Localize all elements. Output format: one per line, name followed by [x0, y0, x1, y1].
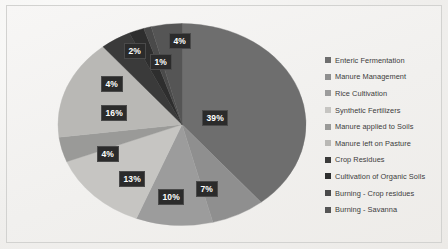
pie-slice-percentage-label: 4%: [101, 76, 123, 92]
legend-color-swatch-icon: [325, 90, 331, 96]
legend-item-label: Burning - Crop residues: [335, 189, 414, 198]
pie-slice-percentage-label: 4%: [169, 33, 191, 49]
legend-color-swatch-icon: [325, 207, 331, 213]
legend-color-swatch-icon: [325, 107, 331, 113]
pie-slice-percentage-label: 4%: [97, 146, 119, 162]
legend-item-label: Manure left on Pasture: [335, 139, 411, 148]
pie-slice-percentage-label: 10%: [158, 189, 184, 205]
legend-color-swatch-icon: [325, 74, 331, 80]
legend-item[interactable]: Manure applied to Soils: [325, 118, 445, 135]
legend-item[interactable]: Burning - Savanna: [325, 201, 445, 218]
legend-color-swatch-icon: [325, 190, 331, 196]
legend-item[interactable]: Synthetic Fertilizers: [325, 102, 445, 119]
legend-color-swatch-icon: [325, 140, 331, 146]
pie-slice-percentage-label: 2%: [124, 43, 146, 59]
legend-item[interactable]: Cultivation of Organic Soils: [325, 168, 445, 185]
legend-color-swatch-icon: [325, 157, 331, 163]
legend-item[interactable]: Enteric Fermentation: [325, 52, 445, 69]
legend-color-swatch-icon: [325, 124, 331, 130]
pie-slice-percentage-label: 1%: [150, 54, 172, 70]
legend-item-label: Crop Residues: [335, 155, 385, 164]
legend-item-label: Manure applied to Soils: [335, 122, 413, 131]
pie-slice-percentage-label: 39%: [202, 110, 228, 126]
pie-slice-percentage-label: 13%: [119, 171, 145, 187]
chart-screenshot: 39%7%10%13%4%16%4%2%1%4% Enteric Ferment…: [0, 0, 448, 249]
legend-color-swatch-icon: [325, 173, 331, 179]
chart-legend: Enteric FermentationManure ManagementRic…: [325, 52, 445, 218]
legend-item-label: Burning - Savanna: [335, 205, 397, 214]
legend-item[interactable]: Crop Residues: [325, 152, 445, 169]
legend-item[interactable]: Manure left on Pasture: [325, 135, 445, 152]
legend-item-label: Rice Cultivation: [335, 89, 387, 98]
pie-slice-percentage-label: 16%: [101, 105, 127, 121]
legend-item-label: Manure Management: [335, 72, 406, 81]
legend-item-label: Enteric Fermentation: [335, 56, 405, 65]
legend-item-label: Synthetic Fertilizers: [335, 106, 401, 115]
legend-item[interactable]: Rice Cultivation: [325, 85, 445, 102]
legend-item-label: Cultivation of Organic Soils: [335, 172, 425, 181]
pie-slice-percentage-label: 7%: [196, 181, 218, 197]
legend-item[interactable]: Manure Management: [325, 69, 445, 86]
plot-area: 39%7%10%13%4%16%4%2%1%4% Enteric Ferment…: [0, 0, 448, 249]
legend-color-swatch-icon: [325, 57, 331, 63]
legend-item[interactable]: Burning - Crop residues: [325, 185, 445, 202]
